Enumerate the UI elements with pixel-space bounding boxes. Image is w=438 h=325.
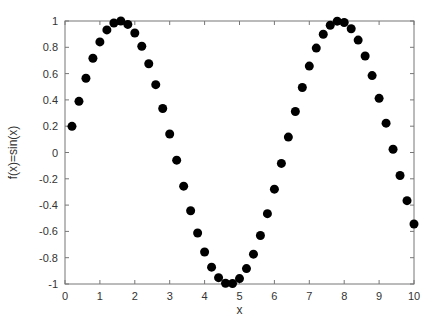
data-point xyxy=(263,209,272,218)
x-tick-label: 0 xyxy=(62,290,68,302)
data-point xyxy=(277,159,286,168)
data-point xyxy=(179,182,188,191)
x-tick-label: 2 xyxy=(132,290,138,302)
data-point xyxy=(340,18,349,27)
y-tick-label: 0.2 xyxy=(43,120,58,132)
data-point xyxy=(270,185,279,194)
x-tick-label: 4 xyxy=(202,290,208,302)
data-point xyxy=(88,54,97,63)
data-point xyxy=(389,145,398,154)
chart-container: 012345678910 -1-0.8-0.6-0.4-0.200.20.40.… xyxy=(0,0,438,325)
data-point xyxy=(165,129,174,138)
y-tick-label: -0.8 xyxy=(39,252,58,264)
data-point xyxy=(319,30,328,39)
data-point xyxy=(284,133,293,142)
data-point xyxy=(291,107,300,116)
y-tick-label: 0.4 xyxy=(43,94,58,106)
data-point xyxy=(312,44,321,53)
data-point xyxy=(249,250,258,259)
y-tick-label: 1 xyxy=(52,15,58,27)
data-point xyxy=(193,228,202,237)
data-point xyxy=(256,231,265,240)
data-point xyxy=(242,264,251,273)
y-tick-label: -0.2 xyxy=(39,173,58,185)
data-point xyxy=(347,24,356,33)
x-tick-label: 6 xyxy=(271,290,277,302)
data-point xyxy=(186,206,195,215)
x-tick-labels: 012345678910 xyxy=(62,290,420,302)
x-tick-label: 7 xyxy=(306,290,312,302)
x-tick-label: 9 xyxy=(376,290,382,302)
data-point xyxy=(403,196,412,205)
data-point xyxy=(305,62,314,71)
data-point xyxy=(67,122,76,131)
data-point xyxy=(130,28,139,37)
axis-ticks xyxy=(65,21,414,284)
data-point xyxy=(298,83,307,92)
data-point xyxy=(200,248,209,257)
data-point xyxy=(214,273,223,282)
x-tick-label: 8 xyxy=(341,290,347,302)
y-tick-label: -1 xyxy=(48,278,58,290)
x-tick-label: 1 xyxy=(97,290,103,302)
data-point xyxy=(396,171,405,180)
data-point xyxy=(207,263,216,272)
y-tick-label: 0 xyxy=(52,147,58,159)
y-axis-label: f(x)=sin(x) xyxy=(6,126,20,180)
data-point xyxy=(102,25,111,34)
y-tick-label: 0.6 xyxy=(43,68,58,80)
data-point xyxy=(151,80,160,89)
x-tick-label: 10 xyxy=(408,290,420,302)
y-tick-label: -0.4 xyxy=(39,199,58,211)
x-tick-label: 5 xyxy=(236,290,242,302)
data-point xyxy=(235,274,244,283)
data-points xyxy=(67,17,418,288)
x-axis-label: x xyxy=(237,303,243,317)
data-point xyxy=(144,59,153,68)
data-point xyxy=(123,20,132,29)
y-tick-label: -0.6 xyxy=(39,225,58,237)
y-tick-labels: -1-0.8-0.6-0.4-0.200.20.40.60.81 xyxy=(39,15,58,290)
data-point xyxy=(361,51,370,60)
data-point xyxy=(74,97,83,106)
data-point xyxy=(410,220,419,229)
data-point xyxy=(137,42,146,51)
data-point xyxy=(354,36,363,45)
data-point xyxy=(375,94,384,103)
data-point xyxy=(368,71,377,80)
plot-frame xyxy=(65,21,414,284)
data-point xyxy=(172,156,181,165)
data-point xyxy=(158,104,167,113)
scatter-plot: 012345678910 -1-0.8-0.6-0.4-0.200.20.40.… xyxy=(0,0,438,325)
data-point xyxy=(81,74,90,83)
data-point xyxy=(382,119,391,128)
y-tick-label: 0.8 xyxy=(43,41,58,53)
data-point xyxy=(95,37,104,46)
x-tick-label: 3 xyxy=(167,290,173,302)
